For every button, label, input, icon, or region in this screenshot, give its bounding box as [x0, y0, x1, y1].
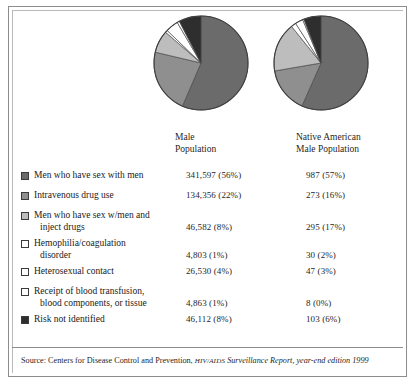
- legend-swatch-icon: [21, 212, 29, 220]
- column-header-male-population: Male Population: [175, 132, 285, 155]
- legend-label-line1: Men who have sex w/men and: [34, 210, 150, 220]
- pie-chart-male-population: [152, 14, 250, 112]
- value-native-american-male-population: 987 (57%): [306, 170, 406, 182]
- legend-swatch-icon: [21, 288, 29, 296]
- legend-label-line1: Men who have sex with men: [34, 170, 144, 180]
- value-native-american-male-population: 103 (6%): [306, 314, 406, 326]
- pie-chart-group: [0, 14, 399, 126]
- legend-label-line1: Risk not identified: [34, 314, 105, 324]
- column-header-native-american: Native American Male Population: [296, 132, 414, 155]
- value-male-population: 26,530 (4%): [186, 266, 291, 278]
- value-native-american-male-population: 30 (2%): [306, 250, 406, 262]
- value-native-american-male-population: 8 (0%): [306, 298, 406, 310]
- source-divider: [12, 347, 403, 348]
- value-native-american-male-population: 295 (17%): [306, 222, 406, 234]
- legend-swatch-icon: [21, 316, 29, 324]
- legend-label: Intravenous drug use: [34, 190, 184, 202]
- source-note: Source: Centers for Disease Control and …: [21, 355, 401, 367]
- legend-label: Men who have sex w/men andinject drugs: [34, 210, 184, 233]
- legend-swatch-icon: [21, 192, 29, 200]
- legend-label: Men who have sex with men: [34, 170, 184, 182]
- legend-label-line1: Hemophilia/coagulation: [34, 238, 126, 248]
- legend-label-line1: Intravenous drug use: [34, 190, 114, 200]
- legend-label: Receipt of blood transfusion,blood compo…: [34, 286, 184, 309]
- source-publication-tail: Surveillance Report, year-end edition 19…: [225, 356, 369, 365]
- legend-label-line2: blood components, or tissue: [34, 298, 184, 310]
- value-male-population: 4,803 (1%): [186, 250, 291, 262]
- legend-swatch-icon: [21, 268, 29, 276]
- pie-chart-native-american-male-population: [272, 14, 370, 112]
- figure-pie-chart-hiv-aids: Male Population Native American Male Pop…: [0, 0, 415, 385]
- source-prefix: Source: Centers for Disease Control and …: [21, 356, 195, 365]
- column-header-native-line2: Male Population: [296, 144, 414, 156]
- pie-svg: [152, 14, 250, 112]
- value-male-population: 134,356 (22%): [186, 190, 291, 202]
- legend-label-line2: disorder: [34, 250, 184, 262]
- pie-svg: [272, 14, 370, 112]
- legend-label: Heterosexual contact: [34, 266, 184, 278]
- value-native-american-male-population: 47 (3%): [306, 266, 406, 278]
- legend-label: Risk not identified: [34, 314, 184, 326]
- column-header-male-line1: Male: [175, 132, 195, 142]
- value-male-population: 4,863 (1%): [186, 298, 291, 310]
- source-publication-smallcaps: HIV/AIDS: [195, 357, 225, 365]
- value-male-population: 341,597 (56%): [186, 170, 291, 182]
- value-male-population: 46,582 (8%): [186, 222, 291, 234]
- value-male-population: 46,112 (8%): [186, 314, 291, 326]
- legend-label-line1: Heterosexual contact: [34, 266, 114, 276]
- legend-label-line1: Receipt of blood transfusion,: [34, 286, 144, 296]
- legend-swatch-icon: [21, 172, 29, 180]
- column-headers: Male Population Native American Male Pop…: [0, 132, 399, 162]
- value-native-american-male-population: 273 (16%): [306, 190, 406, 202]
- legend-swatch-icon: [21, 240, 29, 248]
- legend-label-line2: inject drugs: [34, 222, 184, 234]
- legend-label: Hemophilia/coagulationdisorder: [34, 238, 184, 261]
- column-header-native-line1: Native American: [296, 132, 361, 142]
- column-header-male-line2: Population: [175, 144, 285, 156]
